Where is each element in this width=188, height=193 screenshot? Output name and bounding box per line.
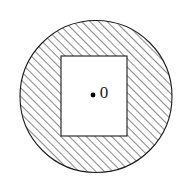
center-point-label: 0: [100, 83, 109, 102]
center-point-marker: [91, 93, 96, 98]
figure-svg: 0: [0, 0, 188, 193]
figure-canvas: 0: [0, 0, 188, 193]
